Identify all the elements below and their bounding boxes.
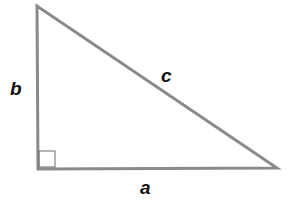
right-angle-marker	[39, 151, 55, 167]
right-triangle-diagram: b c a	[0, 0, 293, 210]
side-label-c: c	[161, 65, 172, 86]
triangle-outline	[37, 6, 277, 169]
side-label-a: a	[140, 177, 151, 198]
side-label-b: b	[10, 78, 22, 99]
